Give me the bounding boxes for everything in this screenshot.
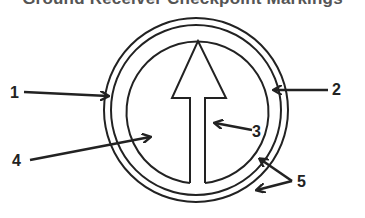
- label-2: 2: [332, 81, 341, 98]
- pointer-arrow-4: [30, 137, 150, 160]
- pointer-arrow-3: [215, 123, 252, 130]
- pointer-arrow-1: [24, 92, 108, 96]
- label-3: 3: [252, 123, 261, 140]
- label-1: 1: [10, 84, 19, 101]
- pointer-arrow-5b: [257, 181, 292, 190]
- label-5: 5: [297, 173, 306, 190]
- checkpoint-marking-diagram: 1 2 3 4 5: [0, 0, 365, 218]
- label-4: 4: [12, 152, 21, 169]
- north-arrow-icon: [172, 41, 226, 183]
